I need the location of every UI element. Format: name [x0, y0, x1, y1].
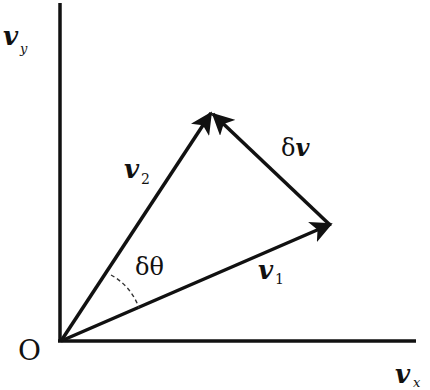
svg-text:x: x — [413, 375, 421, 390]
vector-delta-v — [213, 114, 329, 224]
svg-text:v: v — [124, 154, 140, 184]
v2-label: v 2 — [124, 154, 150, 187]
svg-text:v: v — [395, 359, 411, 389]
y-axis-label: v y — [3, 21, 28, 56]
velocity-diagram: O v y v x v 2 v 1 δv δθ — [0, 0, 430, 390]
delta-theta-label: δθ — [135, 253, 164, 281]
v1-label: v 1 — [258, 255, 284, 287]
x-axis-label: v x — [395, 359, 421, 390]
svg-text:y: y — [19, 41, 28, 56]
svg-text:v: v — [258, 255, 274, 285]
svg-text:1: 1 — [275, 271, 284, 287]
svg-text:2: 2 — [141, 171, 150, 187]
origin-label: O — [18, 334, 41, 367]
svg-text:v: v — [3, 21, 19, 51]
delta-v-label: δv — [281, 133, 310, 162]
